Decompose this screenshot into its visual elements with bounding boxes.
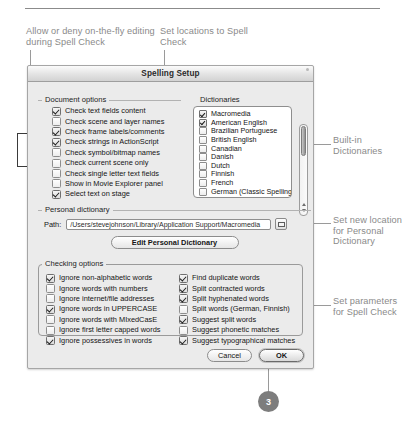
checkbox-icon[interactable] [199,162,207,170]
checkbox-icon[interactable] [46,274,55,283]
checkbox-label: Find duplicate words [192,274,260,282]
checkbox-label: Ignore internet/file addresses [59,295,154,303]
checkbox-icon[interactable] [52,117,61,126]
checkbox-row[interactable]: Ignore non-alphabetic words [46,273,179,283]
path-row: Path: /Users/stevejohnson/Library/Applic… [38,218,311,230]
checkbox-icon[interactable] [52,138,61,147]
checkbox-row[interactable]: Find duplicate words [179,273,295,283]
annotation-built-in-dictionaries: Built-in Dictionaries [333,135,403,156]
checkbox-label: Check frame labels/comments [65,128,164,136]
checking-options-left-column: Ignore non-alphabetic words Ignore words… [46,273,179,346]
checkbox-icon[interactable] [52,159,61,168]
checkbox-row[interactable]: Select text on stage [52,189,181,199]
checkbox-label: Check current scene only [65,159,148,167]
checkbox-label: Check scene and layer names [65,118,164,126]
checkbox-icon[interactable] [179,294,188,303]
checkbox-row[interactable]: Check single letter text fields [52,168,181,178]
checkbox-icon[interactable] [199,170,207,178]
checkbox-icon[interactable] [179,305,188,314]
checkbox-label: Check text fields content [65,107,146,115]
checkbox-icon[interactable] [46,315,55,324]
document-options-legend: Document options [42,95,109,104]
dictionaries-list[interactable]: Macromedia American English Brazilian Po… [193,106,292,198]
checkbox-icon[interactable] [46,284,55,293]
checkbox-icon[interactable] [179,315,188,324]
dialog-body: Document options Check text fields conte… [28,82,313,368]
dictionaries-legend: Dictionaries [197,95,243,104]
checkbox-icon[interactable] [52,179,61,188]
checkbox-icon[interactable] [199,127,207,135]
checkbox-icon[interactable] [46,326,55,335]
annotation-spell-check-parameters: Set parameters for Spell Check [333,296,405,317]
checkbox-icon[interactable] [52,148,61,157]
checkbox-label: Split contracted words [192,285,265,293]
checkbox-row[interactable]: Ignore possessives in words [46,335,179,345]
checking-options-group: Checking options Ignore non-alphabetic w… [38,264,301,346]
checking-options-right-column: Find duplicate words Split contracted wo… [179,273,295,346]
checkbox-label: Select text on stage [65,190,130,198]
checkbox-label: French [211,179,233,187]
checkbox-label: Show in Movie Explorer panel [65,180,163,188]
checkbox-row[interactable]: Show in Movie Explorer panel [52,179,181,189]
checkbox-row[interactable]: Ignore internet/file addresses [46,294,179,304]
checkbox-icon[interactable] [46,336,55,345]
checkbox-icon[interactable] [179,336,188,345]
checkbox-icon[interactable] [52,107,61,116]
checkbox-label: Check symbol/bitmap names [65,149,160,157]
checkbox-row[interactable]: Check strings in ActionScript [52,137,181,147]
list-item[interactable]: German (Classic Spelling) [199,187,291,196]
checkbox-label: British English [211,136,257,144]
checkbox-icon[interactable] [199,110,207,118]
checkbox-row[interactable]: Suggest typographical matches [179,335,295,345]
edit-personal-dictionary-button[interactable]: Edit Personal Dictionary [111,236,239,249]
checkbox-row[interactable]: Ignore words with numbers [46,283,179,293]
checkbox-icon[interactable] [199,188,207,196]
dictionaries-scrollbar[interactable] [299,124,308,216]
checkbox-icon[interactable] [199,136,207,144]
personal-dictionary-legend: Personal dictionary [42,205,113,214]
leader-line-ok-button [268,365,269,392]
checkbox-icon[interactable] [199,153,207,161]
checkbox-label: Ignore words with numbers [59,285,148,293]
checkbox-icon[interactable] [46,294,55,303]
checkbox-row[interactable]: Suggest split words [179,315,295,325]
checkbox-row[interactable]: Split words (German, Finnish) [179,304,295,314]
checkbox-icon[interactable] [52,190,61,199]
checkbox-label: Ignore words in UPPERCASE [59,305,157,313]
cancel-button[interactable]: Cancel [207,349,252,362]
checkbox-label: Suggest phonetic matches [192,326,279,334]
checkbox-icon[interactable] [179,326,188,335]
checkbox-row[interactable]: Check scene and layer names [52,116,181,126]
checkbox-icon[interactable] [199,145,207,153]
checkbox-row[interactable]: Ignore first letter capped words [46,325,179,335]
checkbox-icon[interactable] [52,169,61,178]
checkbox-icon[interactable] [179,274,188,283]
checkbox-row[interactable]: Split hyphenated words [179,294,295,304]
resize-handle-icon[interactable] [306,68,309,71]
checkbox-label: Suggest typographical matches [192,337,295,345]
checkbox-row[interactable]: Split contracted words [179,283,295,293]
checkbox-row[interactable]: Check text fields content [52,106,181,116]
scrollbar-thumb[interactable] [301,126,306,156]
browse-folder-icon[interactable] [275,218,287,230]
step-badge: 3 [258,391,279,412]
checkbox-icon[interactable] [179,284,188,293]
checkbox-icon[interactable] [199,119,207,127]
checkbox-label: Split hyphenated words [192,295,269,303]
scroll-up-arrow-icon[interactable] [302,203,306,206]
checkbox-row[interactable]: Ignore words with MIxedCasE [46,315,179,325]
checkbox-row[interactable]: Ignore words in UPPERCASE [46,304,179,314]
path-input[interactable]: /Users/stevejohnson/Library/Application … [66,219,271,230]
checkbox-row[interactable]: Suggest phonetic matches [179,325,295,335]
checkbox-icon[interactable] [52,127,61,136]
checkbox-icon[interactable] [199,179,207,187]
ok-button[interactable]: OK [259,349,304,362]
leader-line-right-1 [313,144,331,145]
checkbox-row[interactable]: Check frame labels/comments [52,127,181,137]
checkbox-row[interactable]: Check current scene only [52,158,181,168]
page-root: Allow or deny on-the-fly editing during … [0,0,405,432]
spelling-setup-dialog: Spelling Setup Document options Check te… [27,65,314,369]
annotation-personal-dictionary-location: Set new location for Personal Dictionary [333,215,405,247]
checkbox-icon[interactable] [46,305,55,314]
checkbox-row[interactable]: Check symbol/bitmap names [52,148,181,158]
